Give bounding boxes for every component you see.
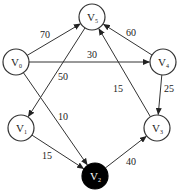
edge-weight-label: 10 (58, 111, 68, 122)
edge-v4-v3 (158, 75, 162, 115)
node-v1: V1 (8, 115, 34, 141)
weights-group: 703060501015402515 (40, 27, 174, 167)
edge-weight-label: 25 (164, 83, 174, 94)
node-v5: V5 (79, 4, 105, 30)
node-v2: V2 (82, 163, 108, 189)
edge-v0-v5 (27, 24, 80, 55)
edge-v0-v2 (23, 73, 87, 165)
edge-weight-label: 15 (113, 83, 123, 94)
edge-weight-label: 70 (40, 29, 50, 40)
edge-weight-label: 60 (126, 27, 136, 38)
edge-v1-v2 (32, 135, 84, 169)
node-v0: V0 (3, 49, 29, 75)
edge-v3-v5 (99, 29, 151, 117)
node-v4: V4 (150, 49, 176, 75)
edge-weight-label: 30 (87, 49, 97, 60)
node-v3: V3 (144, 115, 170, 141)
edge-weight-label: 40 (126, 156, 136, 167)
edge-weight-label: 50 (58, 71, 68, 82)
edge-v5-v1 (28, 28, 85, 117)
edges-group (23, 24, 161, 169)
nodes-group: V0V1V2V3V4V5 (3, 4, 176, 189)
directed-graph: 703060501015402515 V0V1V2V3V4V5 (0, 0, 182, 192)
edge-weight-label: 15 (42, 150, 52, 161)
